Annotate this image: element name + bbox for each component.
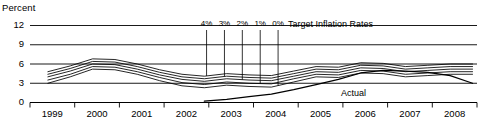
x-tick-label-2000: 2000 (74, 109, 120, 119)
x-tick-label-2006: 2006 (342, 109, 388, 119)
x-tick-label-1999: 1999 (29, 109, 75, 119)
inflation-target-chart: Percent 036912 1999200020012002200320042… (0, 0, 481, 123)
target-rate-label-0pct: 0% (268, 19, 288, 28)
y-tick-label-0: 0 (0, 97, 24, 107)
actual-series-annotation: Actual (341, 88, 366, 98)
y-tick-label-3: 3 (0, 78, 24, 88)
x-tick-label-2002: 2002 (163, 109, 209, 119)
target-inflation-rates-annotation: Target Inflation Rates (288, 19, 373, 29)
x-tick-label-2003: 2003 (208, 109, 254, 119)
y-tick-label-6: 6 (0, 59, 24, 69)
y-tick-label-12: 12 (0, 20, 24, 30)
y-tick-label-9: 9 (0, 39, 24, 49)
x-tick-label-2007: 2007 (387, 109, 433, 119)
x-tick-label-2008: 2008 (432, 109, 478, 119)
x-tick-label-2004: 2004 (253, 109, 299, 119)
x-axis-ticks-group (30, 103, 477, 108)
x-tick-label-2005: 2005 (298, 109, 344, 119)
x-tick-label-2001: 2001 (119, 109, 165, 119)
